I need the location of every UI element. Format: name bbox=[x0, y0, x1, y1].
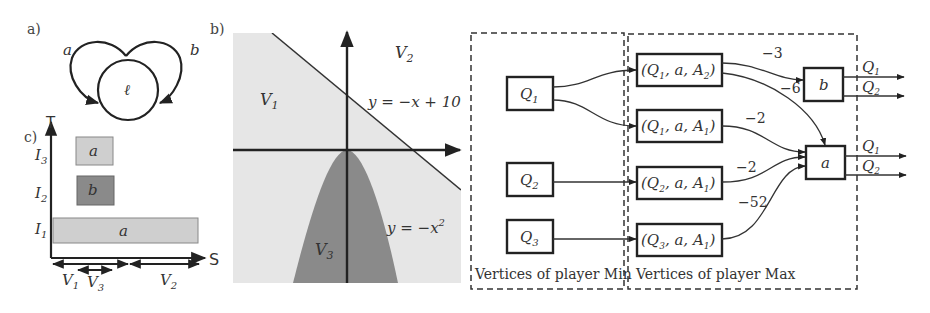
out-a-q1-label: Q1 bbox=[862, 137, 880, 156]
panel-b-tag: b) bbox=[210, 21, 224, 37]
panel-a: a) ℓ a b bbox=[27, 21, 200, 120]
figure: a) ℓ a b c) T S I3 I2 I1 a b a V1 V3 bbox=[0, 0, 930, 313]
out-b-q2-label: Q2 bbox=[862, 78, 880, 97]
bar-a-i3-label: a bbox=[89, 142, 98, 160]
line-equation: y = −x + 10 bbox=[367, 93, 461, 111]
weight-q1a1-a: −2 bbox=[745, 110, 766, 126]
t-axis-label: T bbox=[45, 114, 56, 132]
panel-c-tag: c) bbox=[24, 129, 37, 145]
edge-q1a1-to-a bbox=[722, 126, 805, 152]
min-caption: Vertices of player Min bbox=[474, 266, 632, 282]
out-a-q2-label: Q2 bbox=[862, 157, 880, 176]
loop-label-b: b bbox=[190, 41, 200, 59]
panel-b: b) V2 V1 V3 y = −x + 10 y = −x2 bbox=[210, 21, 461, 283]
interval-v1-label: V1 bbox=[62, 271, 79, 291]
weight-q3a1-a: −52 bbox=[738, 194, 768, 210]
bar-b-i2-label: b bbox=[88, 181, 98, 199]
bar-a-i1-label: a bbox=[119, 222, 128, 240]
loop-label-a: a bbox=[63, 41, 72, 59]
region-v2-label: V2 bbox=[395, 43, 414, 65]
panel-c: c) T S I3 I2 I1 a b a V1 V3 V2 bbox=[24, 114, 219, 293]
panel-a-tag: a) bbox=[27, 21, 41, 37]
interval-v3-label: V3 bbox=[87, 273, 104, 293]
edge-q1a2-to-b bbox=[722, 63, 803, 80]
interval-v2-label: V2 bbox=[160, 271, 177, 291]
tick-i2: I2 bbox=[34, 184, 47, 204]
weight-q2a1-a: −2 bbox=[736, 159, 757, 175]
weight-q1a2-a: −6 bbox=[780, 80, 801, 96]
node-action-a-label: a bbox=[821, 154, 830, 172]
tick-i3: I3 bbox=[34, 146, 47, 166]
node-action-b-label: b bbox=[819, 76, 829, 94]
parabola-equation: y = −x2 bbox=[386, 217, 445, 237]
location-label: ℓ bbox=[124, 81, 130, 99]
weight-q1a2-b: −3 bbox=[762, 45, 783, 61]
max-caption: Vertices of player Max bbox=[635, 266, 796, 282]
tick-i1: I1 bbox=[34, 220, 47, 240]
game-graph: Vertices of player Min Vertices of playe… bbox=[471, 33, 906, 289]
s-axis-label: S bbox=[209, 250, 219, 269]
out-b-q1-label: Q1 bbox=[862, 58, 880, 77]
